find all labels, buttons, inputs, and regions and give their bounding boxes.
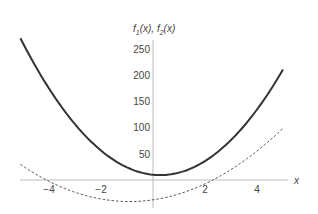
f1-curve [20,38,283,175]
svg-text:4: 4 [254,184,260,195]
svg-text:−2: −2 [95,184,107,195]
x-tick-labels: −4−224 [43,184,260,195]
y-axis-label: f1(x), f2(x) [133,23,175,36]
x-axis-label: x [293,175,300,186]
svg-text:150: 150 [133,96,150,107]
chart: −4−224 50100150200250 x f1(x), f2(x) [0,0,318,214]
svg-text:50: 50 [139,149,151,160]
svg-text:200: 200 [133,70,150,81]
svg-text:2: 2 [202,184,208,195]
f2-curve [20,128,283,201]
svg-text:−4: −4 [43,184,55,195]
y-tick-labels: 50100150200250 [133,44,150,160]
svg-text:250: 250 [133,44,150,55]
svg-text:100: 100 [133,122,150,133]
